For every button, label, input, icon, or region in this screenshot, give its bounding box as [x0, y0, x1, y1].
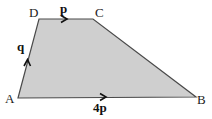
- trapezium-shape: [18, 19, 196, 98]
- vertex-label-d: D: [29, 5, 38, 20]
- vertex-label-a: A: [5, 91, 15, 106]
- vector-label-4p: 4p: [93, 100, 107, 115]
- vector-label-q: q: [17, 39, 25, 54]
- trapezium-diagram: D C A B p q 4p: [0, 0, 212, 119]
- vector-label-p: p: [60, 1, 67, 16]
- vertex-label-c: C: [95, 5, 104, 20]
- vertex-label-b: B: [197, 92, 206, 107]
